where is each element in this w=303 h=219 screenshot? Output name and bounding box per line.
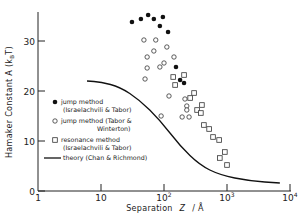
open-circle-marker	[185, 108, 189, 112]
open-square-marker	[200, 103, 205, 108]
open-square-marker	[188, 96, 193, 101]
open-square-marker	[217, 138, 222, 143]
filled-circle-marker	[130, 20, 135, 25]
legend-item: jump method (Tabor &Winterton)	[53, 117, 132, 132]
open-square-marker	[192, 91, 197, 96]
theory-curve	[87, 81, 280, 183]
series-open-square	[171, 73, 229, 168]
y-tick-label: 10	[24, 137, 36, 147]
x-ticks: 110102103104	[35, 184, 298, 203]
filled-circle-marker	[182, 81, 187, 86]
filled-circle-marker	[53, 100, 58, 105]
filled-circle-marker	[174, 65, 179, 70]
x-tick-label: 103	[219, 191, 234, 203]
filled-circle-marker	[152, 17, 157, 22]
open-circle-marker	[187, 115, 191, 119]
hamaker-chart: 0102030 110102103104 Separation Z / Å Ha…	[0, 0, 303, 219]
open-circle-marker	[172, 55, 176, 59]
open-circle-marker	[142, 38, 146, 42]
open-circle-marker	[167, 94, 171, 98]
legend: jump method(Israelachvili & Tabor)jump m…	[44, 98, 147, 162]
open-square-marker	[53, 138, 58, 143]
open-square-marker	[202, 123, 207, 128]
open-circle-marker	[165, 45, 169, 49]
open-circle-marker	[145, 55, 149, 59]
open-square-marker	[182, 73, 187, 78]
open-circle-marker	[53, 119, 57, 123]
filled-circle-marker	[146, 13, 151, 18]
y-tick-label: 20	[24, 87, 36, 97]
open-circle-marker	[143, 77, 147, 81]
open-square-marker	[207, 127, 212, 132]
open-circle-marker	[154, 38, 158, 42]
open-circle-marker	[158, 65, 162, 69]
legend-label: theory (Chan & Richmond)	[63, 154, 147, 162]
open-square-marker	[199, 111, 204, 116]
open-square-marker	[223, 150, 228, 155]
legend-label: jump method	[60, 98, 103, 106]
x-tick-label: 102	[156, 191, 171, 203]
filled-circle-marker	[178, 78, 183, 83]
open-circle-marker	[152, 49, 156, 53]
filled-circle-marker	[158, 24, 163, 29]
open-circle-marker	[145, 66, 149, 70]
legend-item: theory (Chan & Richmond)	[44, 154, 147, 162]
filled-circle-marker	[166, 30, 171, 35]
open-square-marker	[173, 83, 178, 88]
open-square-marker	[211, 135, 216, 140]
filled-circle-marker	[139, 17, 144, 22]
x-tick-label: 104	[282, 191, 297, 203]
legend-label-line2: (Israelachvili & Tabor)	[63, 106, 131, 113]
legend-item: resonance method(Israelachvili & Tabor)	[53, 136, 132, 151]
y-tick-label: 30	[24, 37, 36, 47]
open-circle-marker	[159, 114, 163, 118]
series-open-circle	[142, 38, 192, 119]
y-axis-label: Hamaker Constant A (kBT)	[5, 46, 15, 158]
legend-item: jump method(Israelachvili & Tabor)	[53, 98, 132, 113]
series-line	[87, 81, 280, 183]
legend-label: resonance method	[61, 136, 120, 143]
x-tick-label: 1	[35, 193, 41, 203]
legend-label: jump method (Tabor &	[60, 117, 132, 125]
y-ticks: 0102030	[24, 37, 45, 197]
filled-circle-marker	[161, 15, 166, 20]
open-square-marker	[218, 156, 223, 161]
open-circle-marker	[183, 97, 187, 101]
x-tick-label: 10	[95, 193, 107, 203]
legend-label-line2: (Israelachvili & Tabor)	[63, 144, 131, 151]
x-axis-label: Separation Z / Å	[126, 202, 204, 213]
legend-label-line2: Winterton)	[97, 125, 131, 132]
open-circle-marker	[162, 61, 166, 65]
series-filled-circle	[130, 13, 187, 86]
open-square-marker	[171, 75, 176, 80]
open-circle-marker	[180, 115, 184, 119]
open-square-marker	[225, 163, 230, 168]
